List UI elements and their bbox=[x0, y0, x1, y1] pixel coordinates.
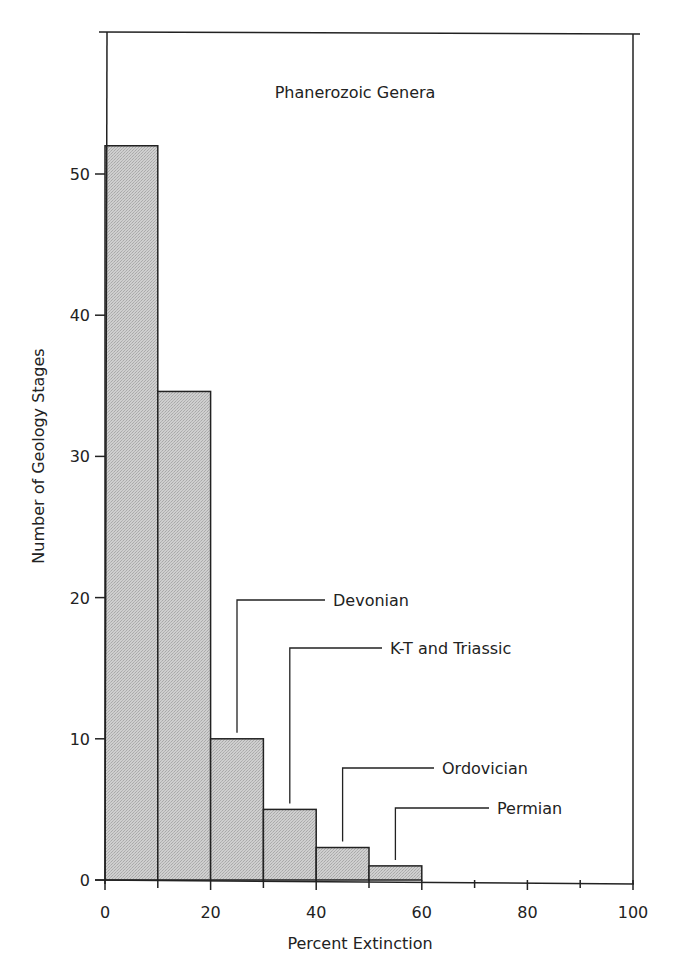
annotation-label: K-T and Triassic bbox=[390, 639, 511, 658]
y-tick-label: 40 bbox=[70, 306, 90, 325]
x-tick-label: 100 bbox=[618, 903, 649, 922]
y-tick-label: 50 bbox=[70, 165, 90, 184]
top-frame bbox=[99, 32, 640, 34]
x-axis-label: Percent Extinction bbox=[287, 934, 432, 953]
annotation-leader-line bbox=[237, 600, 325, 733]
histogram-bar bbox=[263, 809, 316, 880]
y-axis-ticks: 01020304050 bbox=[70, 165, 105, 890]
x-tick-label: 20 bbox=[200, 903, 220, 922]
annotation-leader-line bbox=[395, 808, 489, 860]
x-axis-ticks: 020406080100 bbox=[100, 880, 648, 922]
histogram-bar bbox=[369, 866, 422, 880]
annotation-label: Ordovician bbox=[442, 759, 528, 778]
x-tick-label: 80 bbox=[517, 903, 537, 922]
histogram-bar bbox=[105, 146, 158, 880]
y-tick-label: 30 bbox=[70, 447, 90, 466]
y-tick-label: 0 bbox=[80, 871, 90, 890]
annotation-label: Permian bbox=[497, 799, 562, 818]
x-tick-label: 60 bbox=[412, 903, 432, 922]
annotation-leader-line bbox=[343, 768, 434, 842]
histogram-bar bbox=[211, 739, 264, 880]
y-tick-label: 10 bbox=[70, 730, 90, 749]
annotation-leader-line bbox=[290, 648, 382, 803]
histogram-bar bbox=[316, 848, 369, 880]
x-tick-label: 40 bbox=[306, 903, 326, 922]
annotation-label: Devonian bbox=[333, 591, 409, 610]
chart-title: Phanerozoic Genera bbox=[275, 83, 436, 102]
y-axis-label: Number of Geology Stages bbox=[29, 348, 48, 563]
x-tick-label: 0 bbox=[100, 903, 110, 922]
y-tick-label: 20 bbox=[70, 589, 90, 608]
histogram-bar bbox=[158, 391, 211, 880]
bars-group bbox=[105, 146, 422, 880]
histogram-chart: DevonianK-T and TriassicOrdovicianPermia… bbox=[0, 0, 679, 977]
